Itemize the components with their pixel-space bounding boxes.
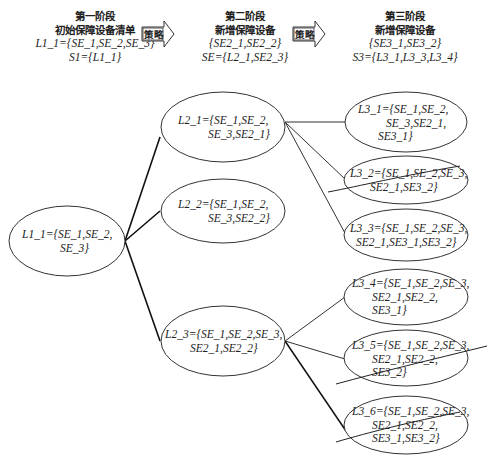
node-L3_4-line1: L3_4={SE_1,SE_2,SE_3, xyxy=(352,277,469,291)
node-L3_6-line3: SE3_1,SE3_2} xyxy=(352,432,469,446)
node-L2_1-line1: L2_1={SE_1,SE_2, xyxy=(178,114,270,128)
node-L1_1: L1_1={SE_1,SE_2, SE_3} xyxy=(22,228,112,255)
node-L3_3-line2: SE2_1,SE3_1,SE3_2} xyxy=(350,236,467,250)
strategy-arrow-1-label: 策略 xyxy=(143,27,164,41)
node-L2_2-line1: L2_2={SE_1,SE_2, xyxy=(178,198,270,212)
node-L2_3: L2_3={SE_1,SE_2,SE_3, SE2_1,SE2_2} xyxy=(165,328,282,355)
strategy-arrow-2-label: 策略 xyxy=(294,27,315,41)
node-L2_3-line1: L2_3={SE_1,SE_2,SE_3, xyxy=(165,328,282,342)
edges-stage2-stage3 xyxy=(285,122,346,431)
node-L2_2: L2_2={SE_1,SE_2, SE_3,SE2_2} xyxy=(178,198,270,225)
node-L3_2-line1: L3_2={SE_1,SE_2,SE_3, xyxy=(350,167,467,181)
node-L3_4-line3: SE3_1} xyxy=(352,304,469,318)
node-L3_5-line2: SE2_1,SE2_2, xyxy=(352,353,469,367)
node-L2_1: L2_1={SE_1,SE_2, SE_3,SE2_1} xyxy=(178,114,270,141)
node-L1_1-line2: SE_3} xyxy=(22,242,112,256)
node-L2_1-line2: SE_3,SE2_1} xyxy=(178,128,270,142)
node-L3_4: L3_4={SE_1,SE_2,SE_3, SE2_1,SE2_2, SE3_1… xyxy=(352,277,469,318)
node-L3_1: L3_1={SE_1,SE_2, SE_3,SE2_1, SE3_1} xyxy=(358,103,448,144)
node-L3_5: L3_5={SE_1,SE_2,SE_3, SE2_1,SE2_2, SE3_2… xyxy=(352,339,469,380)
node-L3_1-line1: L3_1={SE_1,SE_2, xyxy=(358,103,448,117)
node-L3_1-line2: SE_3,SE2_1, xyxy=(358,117,448,131)
node-L3_2: L3_2={SE_1,SE_2,SE_3, SE2_1,SE3_2} xyxy=(350,167,467,194)
node-L2_3-line2: SE2_1,SE2_2} xyxy=(165,342,282,356)
node-L3_6: L3_6={SE_1,SE_2,SE_3, SE2_1,SE2_2, SE3_1… xyxy=(352,405,469,446)
node-L3_2-line2: SE2_1,SE3_2} xyxy=(350,181,467,195)
node-L3_6-line2: SE2_1,SE2_2, xyxy=(352,419,469,433)
node-L3_3: L3_3={SE_1,SE_2,SE_3, SE2_1,SE3_1,SE3_2} xyxy=(350,222,467,249)
node-L3_5-line1: L3_5={SE_1,SE_2,SE_3, xyxy=(352,339,469,353)
node-L3_3-line1: L3_3={SE_1,SE_2,SE_3, xyxy=(350,222,467,236)
node-L1_1-line1: L1_1={SE_1,SE_2, xyxy=(22,228,112,242)
node-ellipses xyxy=(9,92,468,454)
node-L3_1-line3: SE3_1} xyxy=(358,130,448,144)
node-L3_4-line2: SE2_1,SE2_2, xyxy=(352,291,469,305)
edges-stage1-stage2 xyxy=(125,137,160,341)
node-L3_6-line1: L3_6={SE_1,SE_2,SE_3, xyxy=(352,405,469,419)
node-L2_2-line2: SE_3,SE2_2} xyxy=(178,212,270,226)
node-L3_5-line3: SE3_2} xyxy=(352,366,469,380)
